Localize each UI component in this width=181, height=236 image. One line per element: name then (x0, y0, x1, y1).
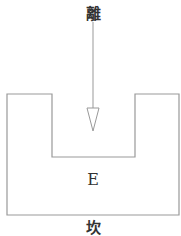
diagram-canvas (0, 0, 181, 236)
top-label: 離 (78, 2, 108, 23)
center-label: E (78, 170, 108, 189)
bottom-label: 坎 (78, 216, 108, 236)
arrow-down-icon (87, 108, 99, 131)
